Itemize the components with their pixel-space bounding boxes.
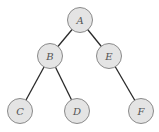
node-e-label: E	[104, 51, 113, 62]
nodes-group: A B E C D F	[8, 8, 154, 124]
node-e: E	[97, 44, 122, 69]
node-d: D	[65, 99, 90, 124]
node-a: A	[68, 8, 93, 33]
node-d-label: D	[72, 106, 81, 117]
node-f-label: F	[137, 106, 146, 117]
edges-group	[20, 20, 141, 111]
node-b-label: B	[45, 51, 53, 62]
node-c: C	[8, 99, 33, 124]
node-b: B	[38, 44, 63, 69]
node-c-label: C	[16, 106, 24, 117]
node-a-label: A	[75, 15, 83, 26]
node-f: F	[129, 99, 154, 124]
tree-diagram: A B E C D F	[0, 0, 159, 132]
